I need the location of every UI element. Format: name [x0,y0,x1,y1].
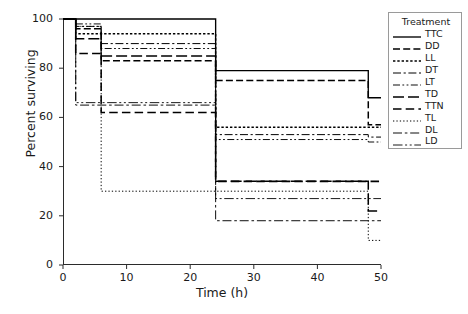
legend-item-label: LT [425,76,435,87]
legend-line-swatch [392,111,422,123]
legend-item-ttn[interactable]: TTN [392,99,460,111]
y-tick-label: 0 [25,260,53,270]
series-line-ttc [63,19,381,98]
legend-item-lt[interactable]: LT [392,76,460,88]
x-axis-label: Time (h) [63,285,381,300]
legend-item-dd[interactable]: DD [392,40,460,52]
legend-line-swatch [392,99,422,111]
series-line-tl [63,19,381,240]
legend-item-label: DT [425,64,438,75]
legend: Treatment TTCDDLLDTLTTDTTNTLDLLD [388,12,462,149]
series-line-dl [63,19,381,221]
legend-item-label: TD [425,88,438,99]
legend-item-td[interactable]: TD [392,88,460,100]
legend-line-swatch [392,40,422,52]
legend-item-tl[interactable]: TL [392,111,460,123]
y-tick-label: 80 [25,63,53,73]
x-tick-label: 40 [302,271,332,284]
series-line-dt [63,19,381,137]
y-tick-label: 60 [25,112,53,122]
x-tick-label: 10 [112,271,142,284]
x-tick-label: 30 [239,271,269,284]
series-line-dd [63,19,381,125]
y-tick-label: 100 [25,14,53,24]
x-tick-label: 20 [175,271,205,284]
legend-item-label: DL [425,124,438,135]
legend-item-label: TL [425,112,436,123]
legend-item-label: LD [425,135,438,146]
legend-line-swatch [392,123,422,135]
series-line-ld [63,19,381,199]
legend-line-swatch [392,76,422,88]
legend-item-label: TTN [425,100,444,111]
x-tick-label: 50 [366,271,396,284]
legend-item-dl[interactable]: DL [392,123,460,135]
legend-item-dt[interactable]: DT [392,64,460,76]
legend-line-swatch [392,52,422,64]
survival-chart-figure: Percent surviving Time (h) 020406080100 … [0,0,468,314]
y-tick-label: 20 [25,211,53,221]
legend-line-swatch [392,28,422,40]
y-tick-label: 40 [25,162,53,172]
legend-line-swatch [392,64,422,76]
legend-item-ttc[interactable]: TTC [392,28,460,40]
legend-title: Treatment [389,16,463,27]
series-line-ll [63,19,381,127]
legend-item-ld[interactable]: LD [392,135,460,147]
legend-item-label: TTC [425,28,443,39]
legend-item-label: LL [425,52,436,63]
legend-item-ll[interactable]: LL [392,52,460,64]
legend-line-swatch [392,135,422,147]
x-tick-label: 0 [48,271,78,284]
legend-item-label: DD [425,40,440,51]
legend-line-swatch [392,88,422,100]
